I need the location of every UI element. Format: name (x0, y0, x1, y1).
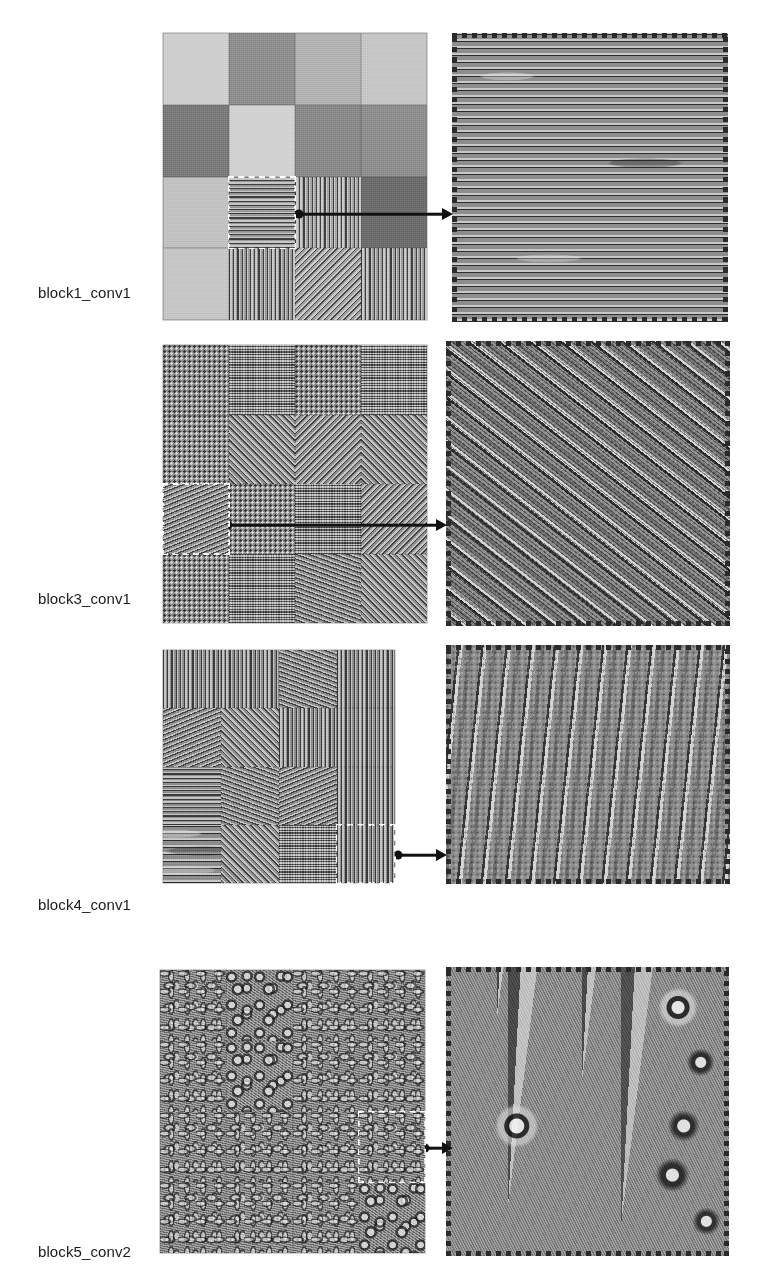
filter-cell[interactable] (295, 345, 361, 415)
filter-cell[interactable] (160, 1041, 226, 1112)
filter-cell[interactable] (279, 708, 337, 766)
filter-cell[interactable] (163, 345, 229, 415)
filter-cell[interactable] (226, 970, 292, 1041)
filter-cell[interactable] (361, 554, 427, 624)
filter-cell[interactable] (361, 105, 427, 177)
filter-cell[interactable] (221, 825, 279, 883)
texture-grain (293, 970, 359, 1041)
filter-cell[interactable] (160, 1182, 226, 1253)
filter-cell[interactable] (293, 970, 359, 1041)
filter-cell[interactable] (226, 1041, 292, 1112)
filter-cell[interactable] (163, 248, 229, 320)
texture-grain (229, 345, 295, 415)
texture-grain (359, 1182, 425, 1253)
texture-grain (295, 33, 361, 105)
filter-grid-block5-conv2 (160, 970, 425, 1253)
zoom-connector-arrow (299, 206, 452, 222)
enlarged-filter-block1-conv1[interactable] (452, 33, 728, 322)
filter-cell[interactable] (163, 415, 229, 485)
filter-cell[interactable] (160, 970, 226, 1041)
filter-cell[interactable] (337, 708, 395, 766)
filter-cell[interactable] (221, 767, 279, 825)
filter-cell[interactable] (337, 767, 395, 825)
filter-cell[interactable] (163, 33, 229, 105)
texture-grain (293, 1041, 359, 1112)
filter-cell[interactable] (295, 554, 361, 624)
filter-cell[interactable] (295, 415, 361, 485)
filter-grid-block3-conv1 (163, 345, 427, 623)
filter-cell[interactable] (226, 1112, 292, 1183)
filter-cell[interactable] (160, 1112, 226, 1183)
enlarged-filter-block3-conv1[interactable] (446, 341, 730, 626)
connector-line (299, 213, 443, 216)
filter-cell[interactable] (229, 415, 295, 485)
zoom-connector-arrow (228, 517, 446, 533)
texture-grain (163, 345, 229, 415)
filter-cell[interactable] (163, 825, 221, 883)
filter-cell[interactable] (361, 248, 427, 320)
filter-cell[interactable] (295, 248, 361, 320)
texture-grain (226, 1112, 292, 1183)
texture-grain (295, 248, 361, 320)
filter-cell[interactable] (293, 1182, 359, 1253)
texture-grain (163, 177, 229, 249)
filter-cell[interactable] (163, 650, 221, 708)
filter-cell[interactable] (359, 1041, 425, 1112)
filter-cell[interactable] (163, 105, 229, 177)
filter-cell[interactable] (163, 177, 229, 249)
filter-cell[interactable] (293, 1112, 359, 1183)
filter-cell[interactable] (229, 554, 295, 624)
filter-cell[interactable] (163, 767, 221, 825)
texture-grain (361, 554, 427, 624)
filter-cell[interactable] (279, 825, 337, 883)
texture-grain (229, 33, 295, 105)
texture-grain (337, 767, 395, 825)
filter-cell[interactable] (359, 970, 425, 1041)
filter-cell[interactable] (361, 415, 427, 485)
filter-cell[interactable] (295, 33, 361, 105)
texture-grain (229, 177, 295, 249)
filter-cell[interactable] (229, 177, 295, 249)
filter-cell[interactable] (226, 1182, 292, 1253)
filter-cell[interactable] (361, 345, 427, 415)
texture-grain (163, 33, 229, 105)
texture-grain (160, 970, 226, 1041)
texture-grain (160, 1182, 226, 1253)
texture-grain (221, 825, 279, 883)
filter-cell[interactable] (337, 650, 395, 708)
filter-cell[interactable] (229, 345, 295, 415)
texture-grain (160, 1041, 226, 1112)
texture-grain (361, 345, 427, 415)
texture-grain (361, 33, 427, 105)
texture-grain (293, 1182, 359, 1253)
texture-grain (163, 650, 221, 708)
filter-cell[interactable] (229, 248, 295, 320)
filter-cell[interactable] (279, 767, 337, 825)
filter-cell[interactable] (221, 708, 279, 766)
texture-grain (295, 345, 361, 415)
connector-arrowhead (442, 208, 453, 220)
layer-label-block4-conv1: block4_conv1 (38, 896, 131, 913)
filter-cell[interactable] (337, 825, 395, 883)
filter-cell[interactable] (163, 708, 221, 766)
filter-cell[interactable] (163, 554, 229, 624)
filter-cell[interactable] (359, 1112, 425, 1183)
filter-cell[interactable] (295, 105, 361, 177)
filter-cell[interactable] (229, 105, 295, 177)
enlarged-filter-block5-conv2[interactable] (446, 967, 729, 1256)
texture-grain (279, 767, 337, 825)
texture-grain (337, 650, 395, 708)
connector-arrowhead (442, 1142, 453, 1154)
connector-line (228, 524, 437, 527)
filter-cell[interactable] (293, 1041, 359, 1112)
filter-cell[interactable] (229, 33, 295, 105)
enlarged-filter-texture (452, 33, 728, 322)
enlarged-filter-block4-conv1[interactable] (446, 645, 730, 884)
filter-cell[interactable] (221, 650, 279, 708)
filter-cell[interactable] (279, 650, 337, 708)
texture-grain (337, 708, 395, 766)
filter-cell[interactable] (359, 1182, 425, 1253)
texture-grain (361, 248, 427, 320)
filter-cell[interactable] (361, 33, 427, 105)
filter-cell[interactable] (163, 484, 229, 554)
